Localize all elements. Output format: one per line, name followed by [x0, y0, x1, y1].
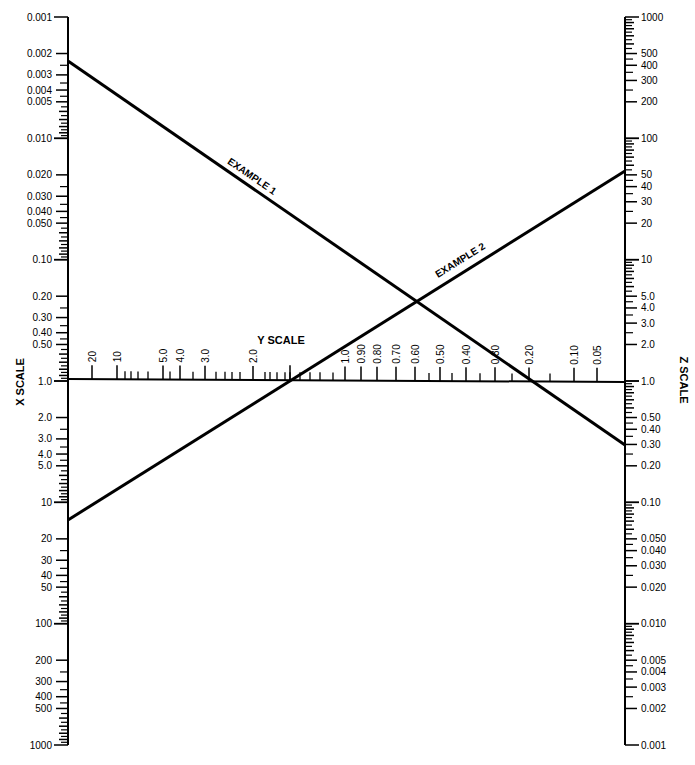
tick-label: 0.20 [33, 291, 53, 302]
tick-label: 0.60 [410, 344, 421, 364]
tick-label: 0.40 [641, 424, 661, 435]
tick-label: 2.0 [248, 349, 259, 363]
tick-label: 4.0 [38, 449, 52, 460]
tick-label: 0.004 [641, 666, 666, 677]
tick-label: 5.0 [641, 291, 655, 302]
tick-label: 3.0 [200, 348, 211, 362]
tick-label: 400 [641, 60, 658, 71]
tick-label: 1.0 [641, 376, 655, 387]
example-2-line [68, 171, 625, 520]
tick-label: 3.0 [641, 318, 655, 329]
tick-label: 20 [641, 218, 653, 229]
tick-label: 0.005 [27, 96, 52, 107]
tick-label: 1.0 [340, 349, 351, 363]
tick-label: 0.50 [435, 344, 446, 364]
tick-label: 10 [41, 497, 53, 508]
example-1-line [68, 61, 625, 445]
tick-label: 100 [641, 133, 658, 144]
tick-label: 4.0 [175, 348, 186, 362]
tick-label: 30 [641, 196, 653, 207]
tick-label: 0.05 [592, 345, 603, 365]
tick-label: 0.20 [524, 345, 535, 365]
tick-label: 0.50 [641, 412, 661, 423]
z-scale-title: Z SCALE [678, 356, 690, 403]
tick-label: 400 [35, 691, 52, 702]
tick-label: 0.40 [461, 344, 472, 364]
tick-label: 0.050 [641, 533, 666, 544]
tick-label: 500 [641, 48, 658, 59]
tick-label: 0.010 [27, 133, 52, 144]
tick-label: 0.20 [641, 460, 661, 471]
tick-label: 0.10 [569, 345, 580, 365]
tick-label: 0.80 [372, 344, 383, 364]
tick-label: 0.30 [33, 312, 53, 323]
tick-label: 0.001 [641, 740, 666, 751]
tick-label: 200 [35, 655, 52, 666]
nomograph: 0.0010.0020.0030.0040.0050.0100.0200.030… [0, 0, 695, 765]
tick-label: 0.001 [27, 12, 52, 23]
x-scale-title: X SCALE [14, 358, 26, 406]
z-scale-axis: 100050040030020010050403020105.04.03.02.… [625, 12, 666, 751]
tick-label: 0.50 [33, 339, 53, 350]
tick-label: 0.10 [33, 254, 53, 265]
tick-label: 0.10 [641, 497, 661, 508]
tick-label: 50 [41, 582, 53, 593]
tick-label: 0.90 [356, 344, 367, 364]
tick-label: 0.003 [641, 682, 666, 693]
tick-label: 0.030 [27, 191, 52, 202]
tick-label: 0.004 [27, 85, 52, 96]
tick-label: 10 [112, 351, 123, 363]
tick-label: 0.030 [641, 560, 666, 571]
tick-label: 40 [41, 570, 53, 581]
tick-label: 1000 [30, 740, 53, 751]
tick-label: 0.30 [641, 439, 661, 450]
tick-label: 50 [641, 169, 653, 180]
tick-label: 0.050 [27, 218, 52, 229]
tick-label: 200 [641, 96, 658, 107]
tick-label: 500 [35, 703, 52, 714]
tick-label: 0.70 [391, 344, 402, 364]
x-scale-axis: 0.0010.0020.0030.0040.0050.0100.0200.030… [27, 12, 68, 751]
tick-label: 40 [641, 181, 653, 192]
tick-label: 20 [41, 533, 53, 544]
example-lines [68, 61, 625, 520]
tick-label: 0.003 [27, 69, 52, 80]
tick-label: 1.0 [38, 376, 52, 387]
tick-label: 0.010 [641, 618, 666, 629]
tick-label: 5.0 [158, 348, 169, 362]
tick-label: 0.020 [641, 582, 666, 593]
tick-label: 2.0 [641, 339, 655, 350]
tick-label: 5.0 [38, 460, 52, 471]
tick-label: 300 [35, 676, 52, 687]
tick-label: 10 [641, 254, 653, 265]
tick-label: 20 [87, 351, 98, 363]
tick-label: 300 [641, 75, 658, 86]
tick-label: 0.020 [27, 169, 52, 180]
tick-label: 2.0 [38, 412, 52, 423]
tick-label: 4.0 [641, 302, 655, 313]
tick-label: 0.002 [27, 48, 52, 59]
tick-label: 1000 [641, 12, 664, 23]
tick-label: 0.40 [33, 327, 53, 338]
y-scale-axis: 20105.04.03.02.01.00.900.800.700.600.500… [68, 344, 625, 382]
tick-label: 0.005 [641, 655, 666, 666]
y-scale-title: Y SCALE [257, 334, 304, 346]
tick-label: 100 [35, 618, 52, 629]
tick-label: 0.040 [27, 206, 52, 217]
tick-label: 0.040 [641, 545, 666, 556]
tick-label: 30 [41, 555, 53, 566]
tick-label: 0.002 [641, 703, 666, 714]
tick-label: 3.0 [38, 433, 52, 444]
